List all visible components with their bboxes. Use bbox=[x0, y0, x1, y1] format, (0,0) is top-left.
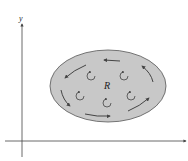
y-axis-label: y bbox=[18, 14, 23, 23]
diagram-canvas: y R bbox=[0, 0, 188, 161]
region-label: R bbox=[103, 80, 110, 91]
